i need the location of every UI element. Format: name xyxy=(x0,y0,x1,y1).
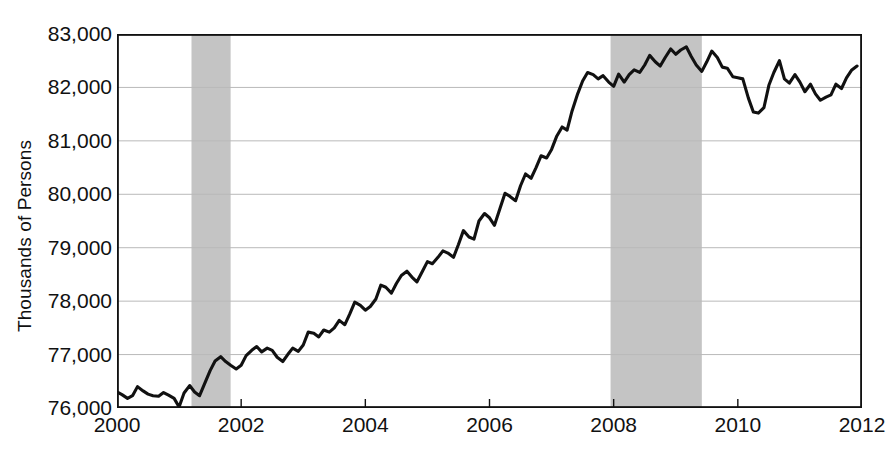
y-tick-label: 83,000 xyxy=(6,23,112,44)
x-tick-label: 2006 xyxy=(435,414,545,435)
y-tick-label: 79,000 xyxy=(6,237,112,258)
recession-2008 xyxy=(611,34,702,408)
x-tick-label: 2002 xyxy=(186,414,296,435)
y-tick-label: 77,000 xyxy=(6,344,112,365)
y-tick-label: 78,000 xyxy=(6,290,112,311)
plot-area xyxy=(117,34,862,408)
y-tick-label: 81,000 xyxy=(6,130,112,151)
chart-figure: Thousands of Persons 76,00077,00078,0007… xyxy=(0,0,888,469)
x-tick-label: 2010 xyxy=(683,414,793,435)
x-tick-label: 2012 xyxy=(807,414,888,435)
x-tick-label: 2000 xyxy=(62,414,172,435)
plot-svg xyxy=(117,34,862,408)
y-tick-label: 82,000 xyxy=(6,76,112,97)
y-axis-tick-labels: 76,00077,00078,00079,00080,00081,00082,0… xyxy=(0,0,112,469)
recession-bands xyxy=(192,34,702,408)
y-tick-label: 80,000 xyxy=(6,183,112,204)
recession-2001 xyxy=(192,34,231,408)
x-tick-label: 2004 xyxy=(310,414,420,435)
x-tick-label: 2008 xyxy=(559,414,669,435)
